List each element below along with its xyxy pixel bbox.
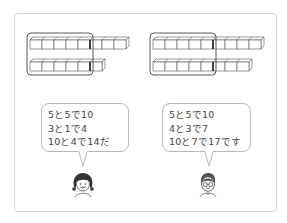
illustration: 5と5で10 3と1で4 10と4で14だ 5と5で10 4と3で7 10と7で… bbox=[0, 0, 287, 223]
left-bubble-tail bbox=[79, 151, 87, 166]
boy-glasses-face-icon bbox=[200, 173, 216, 197]
right-bubble-tail bbox=[205, 151, 213, 166]
girl-face-icon bbox=[72, 173, 94, 197]
characters-layer bbox=[0, 0, 287, 223]
